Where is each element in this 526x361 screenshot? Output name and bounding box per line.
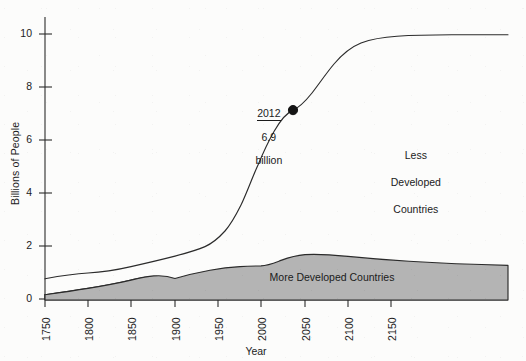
- x-tick-label-2150: 2150: [387, 317, 399, 341]
- annotation-value: 6.9: [262, 131, 277, 143]
- less-developed-line-2: Developed: [391, 176, 441, 188]
- x-tick-label-1950: 1950: [214, 317, 226, 341]
- less-developed-line-3: Countries: [393, 203, 438, 215]
- y-tick-label-10: 10: [8, 28, 32, 40]
- y-tick-label-8: 8: [8, 81, 32, 93]
- region-label-more-developed: More Developed Countries: [247, 272, 417, 284]
- annotation-year: 2012: [257, 108, 280, 120]
- y-tick-label-0: 0: [8, 293, 32, 305]
- x-tick-label-2050: 2050: [301, 317, 313, 341]
- x-tick-label-1900: 1900: [171, 317, 183, 341]
- less-developed-line-1: Less: [405, 149, 427, 161]
- annotation-2012-population: 2012 6.9 billion: [234, 97, 292, 177]
- region-label-less-developed: Less Developed Countries: [364, 136, 456, 230]
- population-chart-figure: 10 8 6 4 2 0 Billions of People 1750 180…: [0, 0, 526, 361]
- x-tick-label-1750: 1750: [41, 317, 53, 341]
- y-axis-title: Billions of People: [10, 122, 22, 205]
- x-tick-label-1850: 1850: [127, 317, 139, 341]
- x-tick-label-2100: 2100: [344, 317, 356, 341]
- x-axis-title: Year: [226, 346, 286, 358]
- y-tick-label-2: 2: [8, 240, 32, 252]
- x-tick-label-2000: 2000: [257, 317, 269, 341]
- x-tick-label-1800: 1800: [84, 317, 96, 341]
- annotation-unit: billion: [255, 154, 282, 166]
